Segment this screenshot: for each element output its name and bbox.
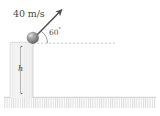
ground	[4, 97, 156, 108]
angle-label: 60°	[49, 27, 61, 36]
angle-value: 60	[49, 28, 59, 37]
height-label: h	[18, 65, 23, 73]
degree-symbol: °	[59, 26, 62, 32]
ground-hatch-fill	[4, 98, 156, 109]
speed-label: 40 m/s	[13, 9, 45, 19]
ball-sphere	[27, 32, 39, 44]
